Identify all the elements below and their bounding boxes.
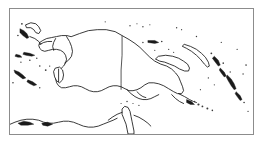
milne-bay-peninsula xyxy=(172,94,197,104)
map-frame xyxy=(9,8,254,135)
northern-australia-coast xyxy=(10,118,117,127)
halmahera-maluku xyxy=(17,23,41,45)
admiralty-islands xyxy=(142,40,162,43)
solomon-islands-chain xyxy=(210,52,244,103)
southwest-islets xyxy=(12,70,40,88)
aru-islands xyxy=(39,65,64,83)
banda-sea-islands xyxy=(15,52,38,63)
gulf-of-papua-coast xyxy=(127,90,159,100)
map-canvas xyxy=(10,9,253,134)
map-figure: New Guinea region outline map xyxy=(0,0,265,144)
louisiade-archipelago xyxy=(187,100,214,112)
torres-strait-islets xyxy=(120,101,139,106)
cape-york-peninsula xyxy=(108,106,151,134)
